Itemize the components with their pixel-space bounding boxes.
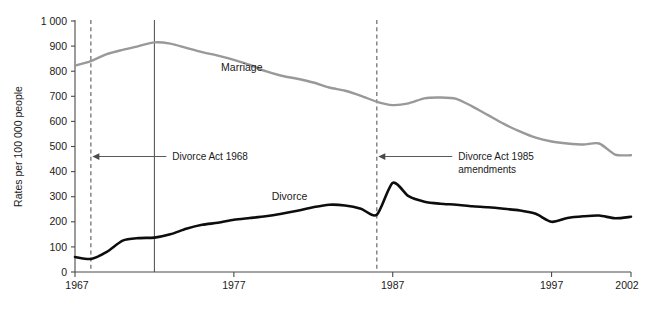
x-tick-label: 1967 [65, 279, 89, 291]
series-line-divorce [75, 183, 631, 259]
y-tick-label: 0 [61, 266, 67, 278]
marriage-divorce-rates-chart: 01002003004005006007008009001 000 196719… [0, 0, 662, 313]
annotation-text: Divorce Act 1985 [458, 151, 534, 162]
x-tick-label: 2002 [615, 279, 639, 291]
annotation-text-line2: amendments [458, 164, 516, 175]
series-label-marriage: Marriage [221, 61, 263, 73]
series-label-divorce: Divorce [272, 190, 308, 202]
series-labels-group: MarriageDivorce [221, 61, 307, 202]
chart-plot-area: 01002003004005006007008009001 000 196719… [0, 0, 662, 313]
x-tick-label: 1977 [222, 279, 246, 291]
y-axis-title: Rates per 100 000 people [12, 86, 24, 207]
y-tick-label: 900 [49, 40, 67, 52]
axes-group [75, 20, 631, 272]
event-lines-group [91, 20, 377, 272]
y-tick-label: 1 000 [41, 15, 67, 27]
y-tick-label: 400 [49, 165, 67, 177]
y-tick-label: 200 [49, 215, 67, 227]
annotation-arrowhead-icon [378, 153, 385, 160]
y-tick-label: 700 [49, 90, 67, 102]
annotation-arrowhead-icon [92, 153, 99, 160]
y-axis-ticks-group: 01002003004005006007008009001 000 [41, 15, 75, 278]
x-axis-ticks-group: 19671977198719972002 [65, 272, 639, 291]
y-tick-label: 100 [49, 241, 67, 253]
annotation-text: Divorce Act 1968 [172, 151, 248, 162]
series-line-marriage [75, 42, 631, 155]
series-group [75, 42, 631, 259]
annotations-group: Divorce Act 1968Divorce Act 1985amendmen… [92, 151, 534, 175]
x-tick-label: 1987 [381, 279, 405, 291]
y-tick-label: 300 [49, 190, 67, 202]
x-tick-label: 1997 [540, 279, 564, 291]
y-tick-label: 600 [49, 115, 67, 127]
y-tick-label: 500 [49, 140, 67, 152]
y-tick-label: 800 [49, 65, 67, 77]
